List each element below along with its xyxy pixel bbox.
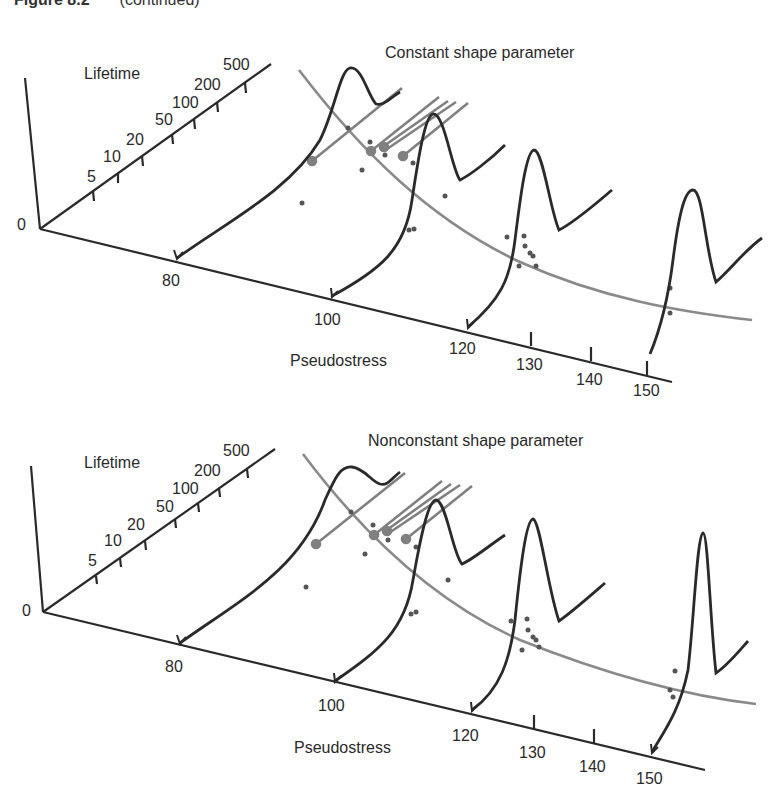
failure-points	[304, 510, 678, 700]
svg-text:150: 150	[636, 770, 663, 787]
lifetime-axis-label: Lifetime	[84, 65, 140, 82]
svg-text:140: 140	[579, 758, 606, 775]
svg-text:50: 50	[156, 498, 174, 515]
lifetime-axis-label: Lifetime	[84, 454, 140, 471]
panel-constant-shape: Constant shape parameter Lifetime 0 5 10…	[17, 44, 762, 399]
svg-text:5: 5	[87, 168, 96, 185]
svg-text:200: 200	[194, 462, 221, 479]
pseudostress-axis-label: Pseudostress	[290, 352, 387, 369]
arrowheads	[177, 635, 658, 753]
svg-text:5: 5	[88, 552, 97, 569]
svg-text:50: 50	[155, 111, 173, 128]
svg-text:200: 200	[194, 76, 221, 93]
pseudostress-tick-labels: 80 100 120 130 140 150	[165, 658, 663, 787]
zero-label: 0	[17, 216, 26, 233]
lifetime-axis	[43, 449, 275, 612]
lifetime-axis	[40, 64, 271, 229]
svg-text:500: 500	[223, 442, 250, 459]
svg-text:100: 100	[314, 311, 341, 328]
density-axis	[31, 466, 43, 612]
svg-text:20: 20	[126, 131, 144, 148]
pseudostress-tick-labels: 80 100 120 130 140 150	[162, 272, 660, 399]
panel-title: Constant shape parameter	[385, 44, 575, 61]
svg-text:130: 130	[516, 356, 543, 373]
svg-text:20: 20	[127, 516, 145, 533]
panel-title: Nonconstant shape parameter	[368, 432, 584, 449]
trend-curve	[299, 70, 752, 320]
svg-text:80: 80	[165, 658, 183, 675]
svg-text:140: 140	[576, 371, 603, 388]
svg-text:150: 150	[633, 382, 660, 399]
censored-observations	[312, 473, 472, 548]
svg-text:130: 130	[519, 744, 546, 761]
svg-text:500: 500	[223, 56, 250, 73]
axes	[31, 449, 705, 770]
svg-text:10: 10	[104, 532, 122, 549]
zero-label: 0	[22, 602, 31, 619]
svg-text:80: 80	[162, 272, 180, 289]
svg-text:100: 100	[172, 480, 199, 497]
svg-text:10: 10	[103, 148, 121, 165]
failure-points	[300, 126, 673, 316]
axes	[25, 64, 672, 382]
svg-text:100: 100	[172, 94, 199, 111]
svg-text:120: 120	[449, 340, 476, 357]
density-curves	[177, 68, 762, 354]
pseudostress-axis-label: Pseudostress	[294, 739, 391, 756]
figure-canvas: Constant shape parameter Lifetime 0 5 10…	[0, 0, 769, 787]
panel-nonconstant-shape: Nonconstant shape parameter Lifetime 0 5…	[22, 432, 756, 787]
svg-text:100: 100	[318, 697, 345, 714]
density-axis	[25, 78, 40, 229]
svg-text:120: 120	[452, 727, 479, 744]
